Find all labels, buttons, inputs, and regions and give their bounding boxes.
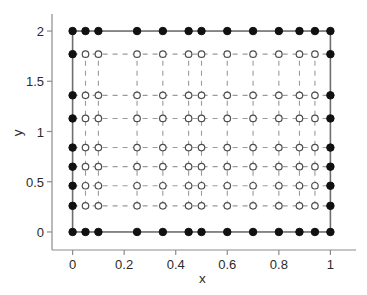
boundary-node xyxy=(311,27,319,34)
interior-node xyxy=(312,51,319,58)
boundary-node xyxy=(296,228,304,236)
interior-node xyxy=(95,182,102,189)
y-tick-label: 1 xyxy=(37,125,44,138)
interior-node xyxy=(224,144,231,151)
interior-node xyxy=(312,163,319,170)
interior-node xyxy=(296,92,303,99)
interior-node xyxy=(296,163,303,170)
boundary-node xyxy=(133,27,141,34)
interior-node xyxy=(185,182,192,189)
y-tick-label: 2 xyxy=(37,25,44,38)
interior-node xyxy=(82,163,89,170)
boundary-node xyxy=(327,115,335,123)
boundary-node xyxy=(327,163,335,171)
interior-node xyxy=(312,203,319,210)
interior-node xyxy=(276,51,283,58)
interior-node xyxy=(198,163,205,170)
y-axis-title: y xyxy=(11,129,25,136)
boundary-node xyxy=(159,27,167,34)
boundary-node xyxy=(311,228,319,236)
x-tick-label: 0.6 xyxy=(218,258,236,271)
y-tick-label: 1.5 xyxy=(26,75,44,88)
interior-node xyxy=(296,51,303,58)
interior-node xyxy=(296,203,303,210)
boundary-node xyxy=(327,50,335,58)
boundary-node xyxy=(296,27,304,34)
interior-node xyxy=(160,51,167,58)
interior-node xyxy=(185,115,192,122)
interior-node xyxy=(296,115,303,122)
boundary-node xyxy=(198,27,206,34)
interior-node xyxy=(134,163,141,170)
mesh-plot xyxy=(0,0,367,295)
interior-node xyxy=(82,144,89,151)
interior-node xyxy=(250,51,257,58)
interior-node xyxy=(95,144,102,151)
boundary-node xyxy=(69,228,77,236)
boundary-node xyxy=(327,27,335,34)
boundary-node xyxy=(133,228,141,236)
interior-node xyxy=(198,92,205,99)
interior-node xyxy=(185,51,192,58)
interior-node xyxy=(82,203,89,210)
interior-node xyxy=(224,182,231,189)
interior-node xyxy=(95,51,102,58)
interior-node xyxy=(198,115,205,122)
interior-node xyxy=(312,182,319,189)
interior-node xyxy=(250,144,257,151)
interior-node xyxy=(185,203,192,210)
boundary-node xyxy=(69,115,77,123)
interior-node xyxy=(198,203,205,210)
boundary-node xyxy=(327,144,335,152)
boundary-node xyxy=(185,27,193,34)
interior-node xyxy=(160,92,167,99)
interior-node xyxy=(224,51,231,58)
boundary-node xyxy=(69,182,77,190)
boundary-node xyxy=(224,228,232,236)
interior-node xyxy=(296,182,303,189)
interior-node xyxy=(224,163,231,170)
interior-node xyxy=(134,92,141,99)
boundary-node xyxy=(224,27,232,34)
interior-node xyxy=(160,144,167,151)
interior-node xyxy=(312,144,319,151)
boundary-node xyxy=(69,163,77,171)
interior-node xyxy=(95,163,102,170)
boundary-node xyxy=(82,27,90,34)
y-tick-label: 0 xyxy=(37,225,44,238)
interior-node xyxy=(198,182,205,189)
boundary-node xyxy=(275,27,283,34)
boundary-node xyxy=(327,182,335,190)
interior-node xyxy=(134,203,141,210)
interior-node xyxy=(134,144,141,151)
interior-node xyxy=(95,92,102,99)
interior-node xyxy=(134,182,141,189)
interior-node xyxy=(185,163,192,170)
interior-node xyxy=(276,182,283,189)
interior-node xyxy=(276,203,283,210)
interior-node xyxy=(250,182,257,189)
interior-node xyxy=(276,144,283,151)
interior-node xyxy=(134,51,141,58)
interior-node xyxy=(160,182,167,189)
interior-node xyxy=(185,144,192,151)
interior-node xyxy=(95,115,102,122)
interior-node xyxy=(250,115,257,122)
interior-node xyxy=(312,115,319,122)
boundary-node xyxy=(198,228,206,236)
boundary-node xyxy=(327,202,335,210)
y-tick-label: 0.5 xyxy=(26,175,44,188)
interior-node xyxy=(160,115,167,122)
boundary-node xyxy=(69,50,77,58)
interior-node xyxy=(82,115,89,122)
interior-node xyxy=(250,163,257,170)
interior-node xyxy=(185,92,192,99)
interior-node xyxy=(95,203,102,210)
x-tick-label: 0 xyxy=(69,258,76,271)
boundary-node xyxy=(275,228,283,236)
boundary-node xyxy=(327,92,335,100)
x-tick-label: 0.8 xyxy=(270,258,288,271)
boundary-node xyxy=(95,27,103,34)
x-tick-label: 1 xyxy=(327,258,334,271)
interior-node xyxy=(160,203,167,210)
